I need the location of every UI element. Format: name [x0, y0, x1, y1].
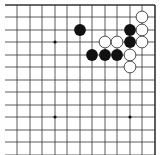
black-stone	[86, 49, 98, 61]
black-stone	[99, 49, 111, 61]
black-stone	[74, 24, 86, 36]
black-stone	[124, 36, 136, 48]
black-stone	[124, 24, 136, 36]
white-stone	[99, 36, 111, 48]
white-stone	[136, 36, 148, 48]
white-stone	[111, 36, 123, 48]
go-board[interactable]	[0, 0, 162, 155]
white-stone	[136, 24, 148, 36]
star-point-icon	[53, 115, 56, 118]
white-stone	[124, 49, 136, 61]
black-stone	[111, 49, 123, 61]
star-point-icon	[128, 115, 131, 118]
white-stone	[136, 11, 148, 23]
star-point-icon	[53, 40, 56, 43]
white-stone	[124, 61, 136, 73]
